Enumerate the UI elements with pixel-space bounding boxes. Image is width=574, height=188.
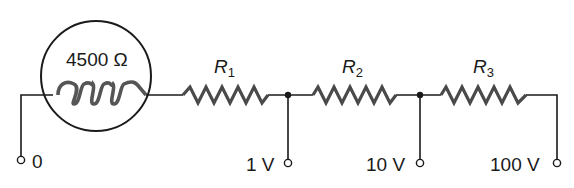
resistor-subscript: 2 <box>356 65 363 80</box>
resistor-name: R <box>473 56 487 77</box>
resistor-r1 <box>183 87 268 103</box>
terminal-10v[interactable] <box>416 159 423 166</box>
resistor-name: R <box>342 56 356 77</box>
resistor-subscript: 1 <box>228 65 235 80</box>
terminal-100v[interactable] <box>553 159 560 166</box>
terminal-label-0: 0 <box>32 152 43 171</box>
terminal-label-10v: 10 V <box>366 155 405 174</box>
resistor-name: R <box>214 56 228 77</box>
terminal-label-100v: 100 V <box>490 155 540 174</box>
circuit-schematic <box>0 0 574 188</box>
resistor-label-r2: R2 <box>342 57 363 79</box>
meter-resistance-label: 4500 Ω <box>66 50 128 69</box>
wire-r3-to-100v <box>526 95 557 160</box>
resistor-label-r3: R3 <box>473 57 494 79</box>
resistor-r3 <box>441 87 526 103</box>
resistor-label-r1: R1 <box>214 57 235 79</box>
resistor-r2 <box>313 87 396 103</box>
terminal-0[interactable] <box>17 156 24 163</box>
meter-circle <box>41 21 151 131</box>
resistor-subscript: 3 <box>487 65 494 80</box>
terminal-1v[interactable] <box>284 159 291 166</box>
coil-icon <box>58 82 146 104</box>
terminal-label-1v: 1 V <box>246 155 275 174</box>
